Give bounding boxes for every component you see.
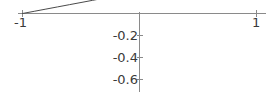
x-axis-tick-label-pos1: 1 — [252, 16, 260, 29]
y-axis-tick-label-neg04: -0.4 — [101, 51, 138, 64]
x-axis-tick-label-neg1: -1 — [14, 16, 27, 29]
y-axis-tick-label-neg06: -0.6 — [101, 73, 138, 86]
data-curve — [23, 0, 257, 14]
y-axis-tick-label-neg02: -0.2 — [101, 29, 138, 42]
plot-figure: -1 1 -0.2 -0.4 -0.6 — [0, 0, 274, 107]
